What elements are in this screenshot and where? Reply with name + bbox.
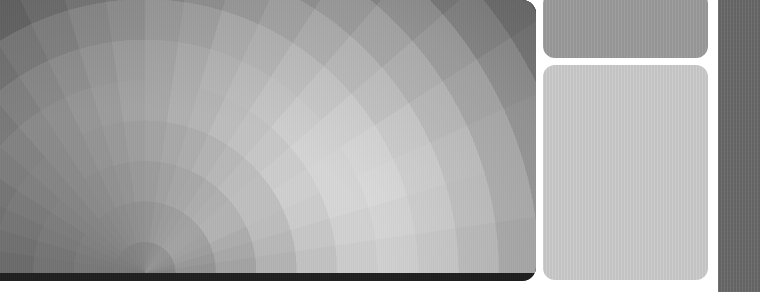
- heatmap-cell: [495, 216, 536, 272]
- heatmap-cell: [145, 0, 184, 42]
- heatmap-cell: [455, 222, 499, 272]
- heatmap-cell: [375, 234, 418, 273]
- bottom-gutter: [0, 281, 718, 292]
- side-panel-main-label: [543, 65, 544, 66]
- radial-heatmap-canvas[interactable]: [0, 0, 536, 281]
- radial-heatmap-panel[interactable]: [0, 0, 536, 281]
- right-rail-texture: [718, 0, 760, 292]
- side-panel-main[interactable]: [543, 65, 708, 280]
- heatmap-cell: [145, 40, 178, 82]
- heatmap-cell: [106, 0, 145, 42]
- app-root: [0, 0, 760, 292]
- side-panel-top[interactable]: [543, 0, 708, 58]
- side-panel-main-texture: [543, 65, 708, 280]
- side-panel-top-texture: [543, 0, 708, 58]
- heatmap-sector-group: [0, 0, 536, 281]
- heatmap-cell: [415, 228, 458, 273]
- right-rail[interactable]: [718, 0, 760, 292]
- right-rail-label: [718, 0, 719, 1]
